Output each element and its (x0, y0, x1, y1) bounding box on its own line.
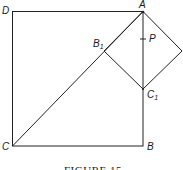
point-a (142, 11, 145, 14)
label-a: A (138, 0, 146, 10)
label-p: P (149, 33, 156, 44)
label-c: C (2, 141, 10, 152)
label-b: B (147, 141, 154, 152)
label-b1: B1 (93, 38, 104, 50)
point-c1 (142, 88, 144, 90)
figure-caption: FIGURE 15 (64, 164, 122, 170)
geometry-diagram: D A C B P B1 C1 FIGURE 15 (0, 0, 183, 170)
label-c1: C1 (147, 89, 158, 101)
label-d: D (2, 5, 9, 16)
